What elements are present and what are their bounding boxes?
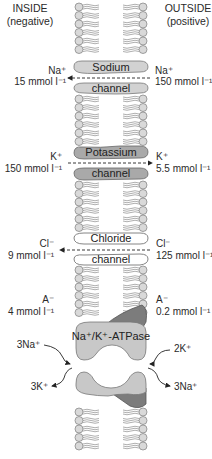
phospholipid [123, 224, 147, 232]
phospholipid [75, 181, 99, 189]
potassium-outside-ion: K⁺ [156, 151, 168, 162]
chloride-inside-conc: 9 mmol l⁻¹ [8, 250, 55, 261]
sodium-outside-conc: 150 mmol l⁻¹ [155, 76, 212, 87]
outside-title: OUTSIDE [165, 2, 212, 14]
sodium-channel-label: Sodium [92, 61, 129, 73]
phospholipid [123, 275, 147, 283]
potassium-outside-conc: 5.5 mmol l⁻¹ [156, 163, 211, 174]
sodium-potassium-pump: Na⁺/K⁺-ATPase 3Na⁺ 2K⁺ 3K⁺ 3Na⁺ [17, 305, 198, 408]
phospholipid [123, 37, 147, 45]
phospholipid [75, 408, 99, 416]
pump-lower-subunit [76, 372, 146, 396]
phospholipid [75, 37, 99, 45]
outside-subtitle: (positive) [167, 15, 210, 27]
chloride-inside-ion: Cl⁻ [40, 238, 54, 249]
phospholipid [75, 215, 99, 223]
phospholipid [123, 181, 147, 189]
potassium-channel-label: Potassium [85, 146, 136, 158]
phospholipid [123, 292, 147, 300]
phospholipid [75, 46, 99, 54]
phospholipid [123, 112, 147, 120]
phospholipid [123, 46, 147, 54]
phospholipid [75, 224, 99, 232]
phospholipid [75, 266, 99, 274]
phospholipid [123, 95, 147, 103]
phospholipid [123, 29, 147, 37]
phospholipid [123, 20, 147, 28]
phospholipid [75, 417, 99, 425]
phospholipid [75, 309, 99, 317]
anion-outside-conc: 0.2 mmol l⁻¹ [156, 306, 211, 317]
phospholipid [123, 138, 147, 146]
sodium-inside-ion: Na⁺ [48, 65, 66, 76]
chloride-channel-label: Chloride [91, 232, 132, 244]
phospholipid [123, 190, 147, 198]
phospholipid [123, 207, 147, 215]
phospholipid [75, 95, 99, 103]
sodium-channel: Sodium channel Na⁺ 15 mmol l⁻¹ Na⁺ 150 m… [14, 61, 212, 94]
phospholipid [123, 434, 147, 442]
pump-k-in-label: 2K⁺ [174, 343, 191, 354]
phospholipid [75, 434, 99, 442]
potassium-inside-conc: 150 mmol l⁻¹ [5, 163, 63, 174]
phospholipid [75, 121, 99, 129]
anion-inside-ion: A⁻ [42, 294, 54, 305]
chloride-channel: Chloride channel Cl⁻ 9 mmol l⁻¹ Cl⁻ 125 … [8, 232, 212, 265]
phospholipid [75, 12, 99, 20]
arrow-3na-in [44, 345, 70, 364]
inside-title: INSIDE [12, 2, 47, 14]
chloride-outside-ion: Cl⁻ [156, 238, 170, 249]
phospholipid [75, 29, 99, 37]
phospholipid [75, 20, 99, 28]
arrow-3k-out [52, 368, 72, 386]
phospholipid [75, 207, 99, 215]
anion-inside-conc: 4 mmol l⁻¹ [8, 306, 55, 317]
phospholipid [75, 198, 99, 206]
phospholipid [123, 121, 147, 129]
chloride-channel-sublabel: channel [92, 253, 131, 265]
phospholipid [75, 292, 99, 300]
pump-label: Na⁺/K⁺-ATPase [72, 330, 150, 342]
phospholipid [75, 129, 99, 137]
phospholipid [123, 104, 147, 112]
potassium-inside-ion: K⁺ [50, 151, 62, 162]
phospholipid [123, 129, 147, 137]
phospholipid [75, 300, 99, 308]
arrow-2k-in [150, 350, 170, 364]
phospholipid [123, 417, 147, 425]
phospholipid [75, 112, 99, 120]
phospholipid [123, 283, 147, 291]
phospholipid [75, 138, 99, 146]
anion-outside-ion: A⁻ [156, 294, 168, 305]
phospholipid [123, 215, 147, 223]
phospholipid [123, 198, 147, 206]
sodium-outside-ion: Na⁺ [155, 65, 173, 76]
phospholipid [123, 12, 147, 20]
pump-na-in-label: 3Na⁺ [17, 339, 40, 350]
phospholipid [123, 425, 147, 433]
anion-labels: A⁻ 4 mmol l⁻¹ A⁻ 0.2 mmol l⁻¹ [8, 294, 211, 317]
phospholipid [75, 442, 99, 450]
inside-subtitle: (negative) [7, 15, 54, 27]
phospholipid [75, 275, 99, 283]
phospholipid [123, 266, 147, 274]
sodium-channel-sublabel: channel [92, 82, 131, 94]
phospholipid [75, 283, 99, 291]
chloride-outside-conc: 125 mmol l⁻¹ [156, 250, 212, 261]
phospholipid [75, 425, 99, 433]
phospholipid [75, 190, 99, 198]
sodium-inside-conc: 15 mmol l⁻¹ [14, 76, 66, 87]
phospholipid [123, 3, 147, 11]
phospholipid [75, 3, 99, 11]
pump-k-out-label: 3K⁺ [31, 381, 48, 392]
potassium-channel: Potassium channel K⁺ 150 mmol l⁻¹ K⁺ 5.5… [5, 146, 211, 180]
potassium-channel-sublabel: channel [92, 167, 131, 179]
arrow-3na-out [148, 368, 170, 386]
membrane-diagram: INSIDE (negative) OUTSIDE (positive) Sod… [0, 0, 212, 459]
phospholipid [123, 408, 147, 416]
phospholipid [75, 104, 99, 112]
pump-na-out-label: 3Na⁺ [174, 381, 197, 392]
phospholipid [123, 442, 147, 450]
